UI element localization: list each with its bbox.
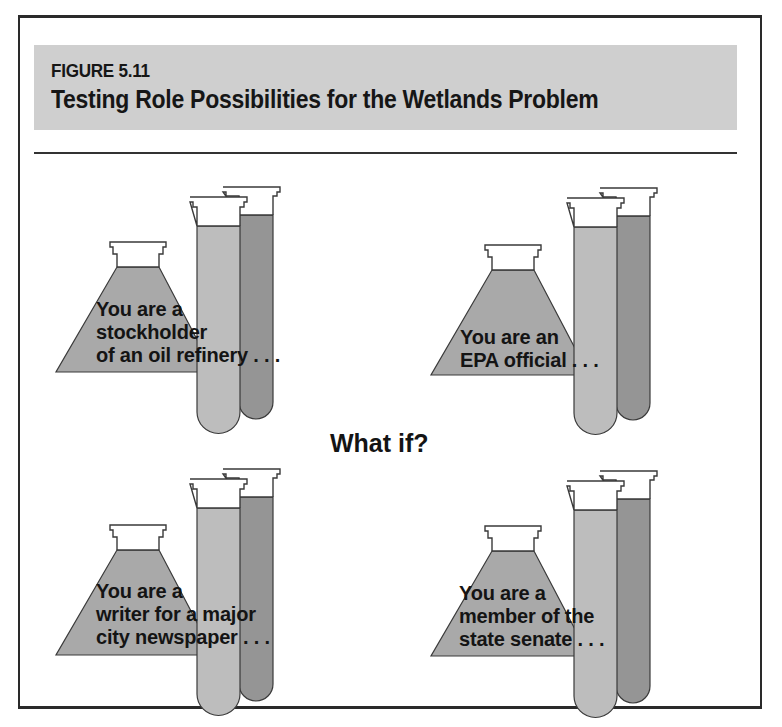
role-line: member of the bbox=[459, 605, 604, 628]
role-line: You are an bbox=[460, 326, 599, 349]
role-text-bottom-right: You are a member of the state senate . .… bbox=[459, 582, 604, 651]
role-line: writer for a major bbox=[96, 603, 270, 626]
what-if-label: What if? bbox=[330, 429, 429, 458]
test-tubes-icon-top-right bbox=[567, 188, 657, 434]
role-line: You are a bbox=[96, 298, 280, 321]
role-text-top-left: You are a stockholder of an oil refinery… bbox=[96, 298, 280, 367]
role-text-bottom-left: You are a writer for a major city newspa… bbox=[96, 580, 270, 649]
role-line: EPA official . . . bbox=[460, 349, 599, 372]
role-line: of an oil refinery . . . bbox=[96, 344, 280, 367]
role-line: state senate . . . bbox=[459, 628, 604, 651]
role-line: stockholder bbox=[96, 321, 280, 344]
role-line: city newspaper . . . bbox=[96, 626, 270, 649]
role-line: You are a bbox=[96, 580, 270, 603]
role-text-top-right: You are an EPA official . . . bbox=[460, 326, 599, 372]
role-line: You are a bbox=[459, 582, 604, 605]
